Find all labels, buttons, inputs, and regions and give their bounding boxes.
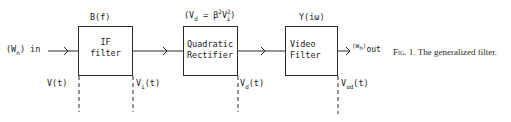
video-filter-block: Video Filter [285,26,338,76]
rectifier-transfer-label: (Vd = β2V2i) [184,8,235,22]
video-output-signal-label: Vod(t) [341,78,369,90]
if-filter-transfer-label: B(f) [90,12,110,22]
rectifier-line-1: Quadratic [187,39,233,50]
rectifier-line-2: Rectifier [187,50,233,61]
input-signal-label: V(t) [47,78,67,88]
diagram-wires [0,0,511,122]
figure-caption: Fig. 1. The generalized filter. [393,47,497,57]
input-label: (Wn) in [6,44,40,56]
if-filter-line-2: filter [79,48,132,59]
rectifier-output-signal-label: Vd(t) [240,78,264,90]
video-filter-transfer-label: Y(iω) [299,12,325,22]
output-label: (Wn)out [352,42,381,54]
video-filter-line-1: Video [290,39,321,50]
video-filter-line-2: Filter [290,50,321,61]
quadratic-rectifier-block: Quadratic Rectifier [183,26,238,76]
if-filter-line-1: IF [79,37,132,48]
if-output-signal-label: Vi(t) [136,78,160,90]
if-filter-block: IF filter [78,26,133,76]
